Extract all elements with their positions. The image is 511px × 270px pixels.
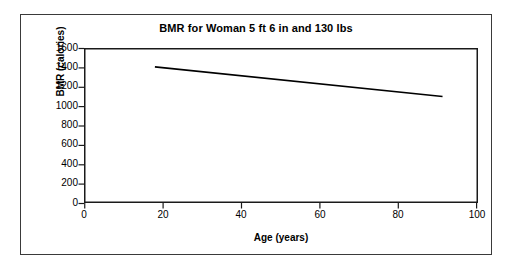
- plot-svg: [84, 48, 478, 203]
- y-tick-label: 200: [44, 178, 78, 188]
- data-line-bmr: [155, 67, 443, 97]
- y-tick-label: 1200: [44, 81, 78, 91]
- x-tick-label: 60: [300, 209, 340, 220]
- y-tick-label: 1600: [44, 43, 78, 53]
- x-axis-title: Age (years): [84, 232, 478, 243]
- y-tick-label: 400: [44, 159, 78, 169]
- chart-title: BMR for Woman 5 ft 6 in and 130 lbs: [20, 22, 492, 34]
- y-tick-label: 800: [44, 120, 78, 130]
- y-tick-label: 1000: [44, 101, 78, 111]
- x-tick-label: 100: [457, 209, 497, 220]
- y-axis-ticks: [78, 44, 86, 208]
- plot-area: [84, 48, 478, 203]
- x-tick-label: 20: [143, 209, 183, 220]
- y-tick-label: 0: [44, 198, 78, 208]
- x-tick-label: 80: [378, 209, 418, 220]
- x-tick-label: 40: [221, 209, 261, 220]
- plot-frame: [85, 49, 478, 203]
- y-tick-label: 1400: [44, 62, 78, 72]
- y-tick-label: 600: [44, 139, 78, 149]
- chart-figure: BMR for Woman 5 ft 6 in and 130 lbs BMR …: [0, 0, 511, 270]
- x-axis-tick-labels: 0 20 40 60 80 100: [84, 209, 478, 223]
- y-axis-tick-labels: 1600 1400 1200 1000 800 600 400 200 0: [42, 0, 78, 270]
- x-tick-label: 0: [64, 209, 104, 220]
